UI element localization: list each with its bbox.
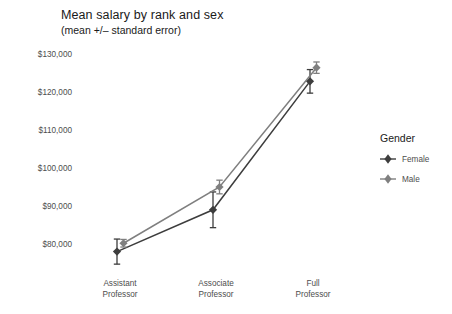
marker	[113, 248, 121, 256]
series-line-male	[124, 68, 317, 244]
marker	[119, 239, 127, 247]
legend-item-male[interactable]: Male	[380, 171, 420, 187]
female-marker-icon	[380, 152, 396, 166]
legend-label-male: Male	[402, 175, 420, 184]
datapoint-male-1	[215, 180, 223, 194]
legend-label-female: Female	[402, 155, 429, 164]
series-layer	[113, 62, 321, 264]
legend-title: Gender	[380, 132, 415, 144]
chart-figure: Mean salary by rank and sex (mean +/– st…	[0, 0, 452, 314]
datapoint-female-1	[209, 192, 217, 228]
legend-item-female[interactable]: Female	[380, 151, 429, 167]
datapoint-male-0	[119, 239, 127, 247]
male-marker-icon	[380, 172, 396, 186]
